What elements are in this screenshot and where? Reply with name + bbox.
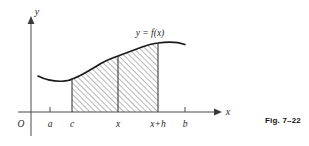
- shaded-area-c-to-x: [72, 56, 118, 112]
- x-tick-label-a: a: [48, 119, 53, 129]
- calculus-area-figure: y x y = f(x) O a c x x+h b: [0, 0, 309, 146]
- x-axis-label: x: [225, 106, 231, 117]
- x-tick-label-x: x: [115, 119, 121, 129]
- y-axis-arrow-icon: [28, 16, 35, 24]
- figure-container: y x y = f(x) O a c x x+h b Fig. 7–22: [0, 0, 309, 146]
- x-axis-arrow-icon: [214, 109, 222, 116]
- curve-equation-label: y = f(x): [135, 28, 165, 39]
- area-c-to-x-fill: [72, 56, 118, 112]
- x-tick-label-c: c: [70, 119, 75, 129]
- origin-label: O: [18, 119, 25, 129]
- x-tick-label-x-plus-h: x+h: [149, 119, 166, 129]
- y-axis-label: y: [34, 6, 40, 17]
- figure-caption: Fig. 7–22: [265, 116, 301, 125]
- x-tick-label-b: b: [183, 119, 188, 129]
